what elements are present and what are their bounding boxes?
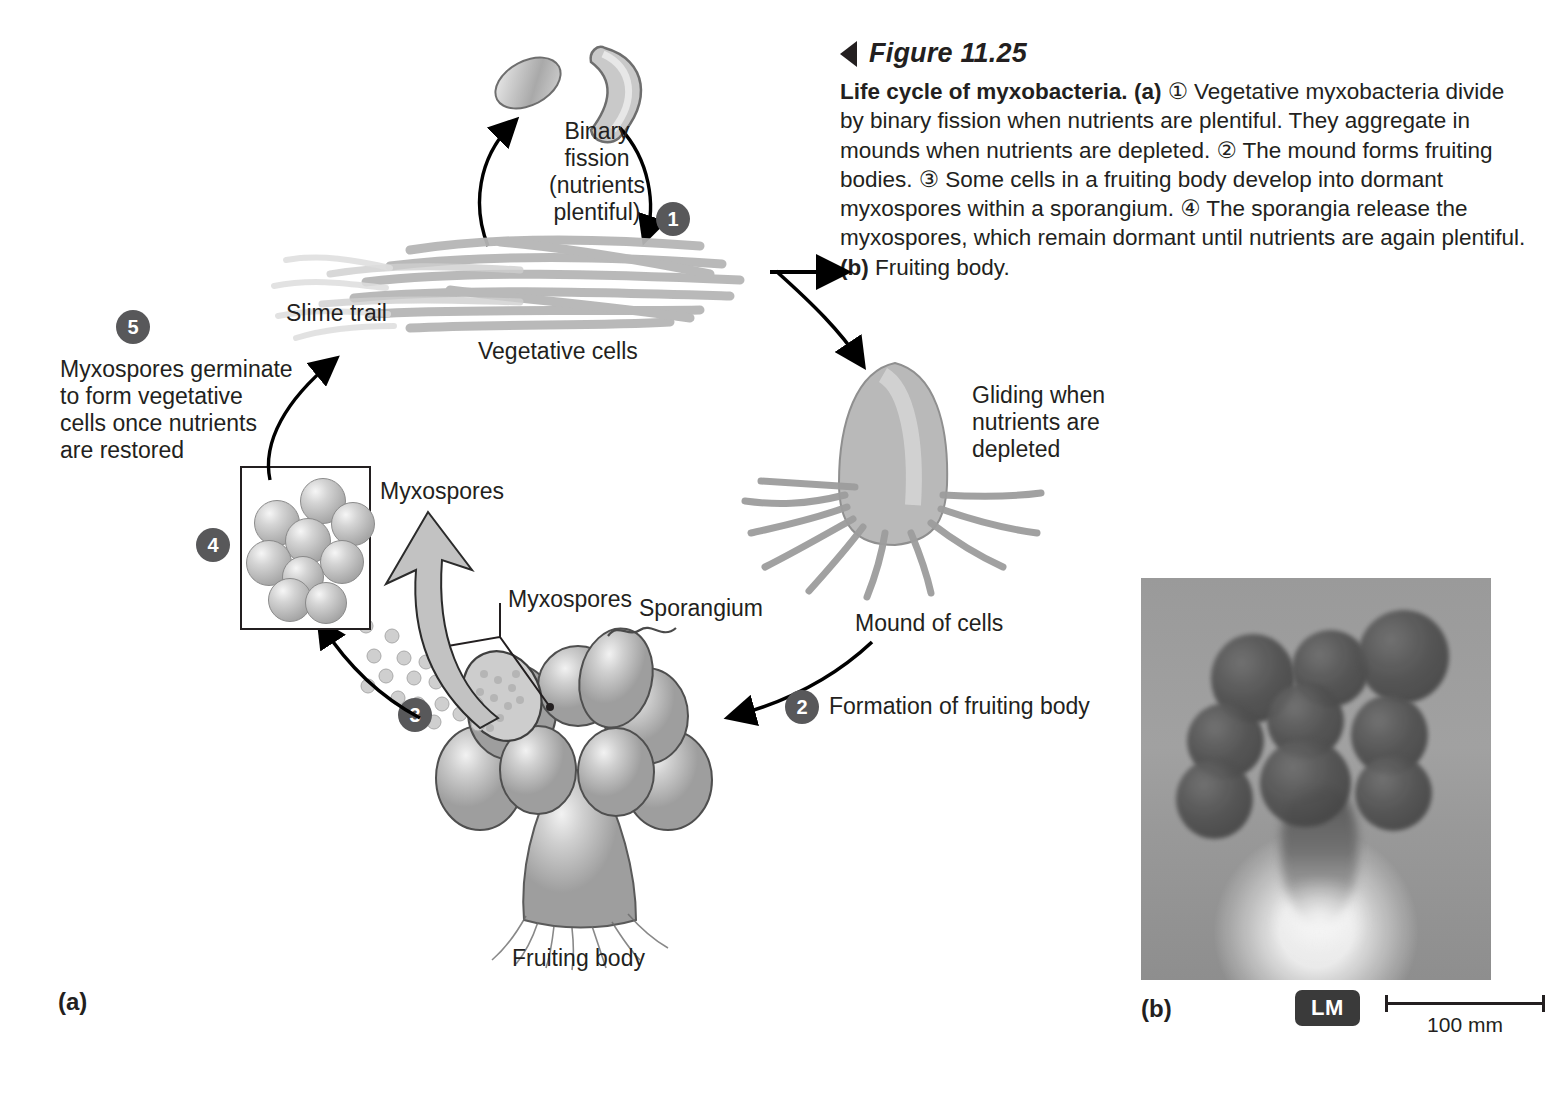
label-binary-fission: Binary fission (nutrients plentiful) xyxy=(512,118,682,227)
figure-caption-block: Figure 11.25 Life cycle of myxobacteria.… xyxy=(840,38,1530,282)
myxospore-sphere xyxy=(320,540,364,584)
step-2-row: 2 Formation of fruiting body xyxy=(785,690,1090,724)
label-fruiting-body: Fruiting body xyxy=(512,945,645,972)
micrograph-blob xyxy=(1260,739,1351,827)
step-badge-4: 4 xyxy=(196,528,230,562)
label-slime-trail: Slime trail xyxy=(286,300,387,327)
micrograph-blob xyxy=(1176,759,1253,839)
arrow-germinate xyxy=(256,338,376,488)
label-gliding: Gliding when nutrients are depleted xyxy=(972,382,1105,463)
micrograph-highlight xyxy=(1267,875,1372,963)
panel-b-label: (b) xyxy=(1141,995,1172,1023)
micrograph-image xyxy=(1141,578,1491,980)
scale-bar-label: 100 mm xyxy=(1385,1013,1545,1037)
step-badge-2: 2 xyxy=(785,690,819,724)
scale-bar-line xyxy=(1385,995,1545,1011)
sporangium-bracket xyxy=(606,618,696,648)
microscopy-technique-badge: LM xyxy=(1295,990,1360,1026)
label-formation-of-fruiting-body: Formation of fruiting body xyxy=(829,693,1090,720)
caption-body-2: Fruiting body. xyxy=(869,255,1010,280)
label-myxospores-box: Myxospores xyxy=(380,478,504,505)
figure-caption-text: Life cycle of myxobacteria. (a) ① Vegeta… xyxy=(840,77,1530,282)
panel-a-label: (a) xyxy=(58,988,87,1016)
myxospore-sphere xyxy=(305,582,347,624)
label-mound-of-cells: Mound of cells xyxy=(855,610,1003,637)
step-badge-5: 5 xyxy=(116,310,150,344)
figure-number: Figure 11.25 xyxy=(869,38,1027,69)
scale-bar: 100 mm xyxy=(1385,995,1545,1037)
micrograph-blob xyxy=(1355,755,1432,831)
micrograph-blob xyxy=(1358,610,1449,702)
figure-heading: Figure 11.25 xyxy=(840,38,1530,69)
left-triangle-icon xyxy=(840,41,857,67)
label-sporangium: Sporangium xyxy=(639,595,763,622)
caption-body-1: ① Vegetative myxobacteria divide by bina… xyxy=(840,79,1525,250)
caption-lead: Life cycle of myxobacteria. xyxy=(840,79,1128,104)
caption-part-a-marker: (a) xyxy=(1134,79,1162,104)
label-vegetative-cells: Vegetative cells xyxy=(478,338,638,365)
